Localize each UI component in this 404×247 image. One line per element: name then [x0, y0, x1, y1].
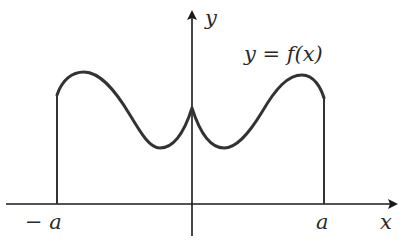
curve-label: y = f(x): [244, 44, 323, 65]
right-bound-label: a: [316, 212, 329, 233]
function-curve: [57, 72, 324, 148]
x-axis-label: x: [380, 212, 392, 233]
left-bound-label: − a: [25, 212, 62, 233]
y-axis-label: y: [205, 8, 217, 29]
